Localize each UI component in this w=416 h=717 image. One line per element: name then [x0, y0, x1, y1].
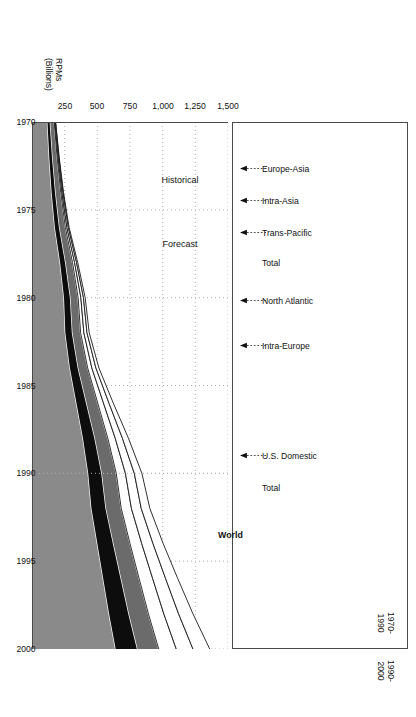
growth-col-header-1: 1990-2000	[376, 654, 396, 688]
growth-row-label-0: Europe-Asia	[262, 164, 352, 174]
x-tick-label-5: 1995	[2, 556, 50, 566]
growth-row-label-6: U.S. Domestic	[262, 451, 352, 461]
callout-arrow-1	[240, 196, 266, 205]
col-header-line1: 1990-	[386, 660, 396, 682]
x-tick-label-6: 2000	[2, 644, 50, 654]
y-axis-title: RPMs (Billions)	[44, 58, 64, 91]
callout-arrow-0	[240, 164, 266, 173]
callout-arrow-5	[240, 341, 266, 350]
growth-row-label-7: Total	[262, 483, 352, 493]
callout-arrow-4	[240, 296, 266, 305]
x-tick-label-3: 1985	[2, 381, 50, 391]
phase-label-historical: Historical	[150, 175, 210, 185]
callout-arrow-6	[240, 451, 266, 460]
col-header-line2: 2000	[376, 661, 386, 680]
growth-row-label-1: Intra-Asia	[262, 196, 352, 206]
growth-row-label-2: Trans-Pacific	[262, 228, 352, 238]
x-tick-label-2: 1980	[2, 293, 50, 303]
world-row-label: World	[218, 530, 262, 540]
chart-plot-area	[32, 122, 228, 649]
figure-canvas: Average Annual Growth (% 1970-19901990-2…	[0, 0, 416, 717]
x-tick-label-1: 1975	[2, 205, 50, 215]
growth-row-label-3: Total	[262, 258, 352, 268]
plot-frame	[32, 122, 228, 649]
growth-row-label-5: Intra-Europe	[262, 341, 352, 351]
phase-label-forecast: Forecast	[150, 239, 210, 249]
callout-arrow-2	[240, 228, 266, 237]
x-tick-label-0: 1970	[2, 117, 50, 127]
col-header-line1: 1970-	[386, 612, 396, 634]
growth-col-header-0: 1970-1990	[376, 606, 396, 640]
x-tick-label-4: 1990	[2, 468, 50, 478]
col-header-line2: 1990	[376, 613, 386, 632]
y-tick-label-5: 1,500	[208, 101, 248, 111]
growth-row-label-4: North Atlantic	[262, 296, 352, 306]
